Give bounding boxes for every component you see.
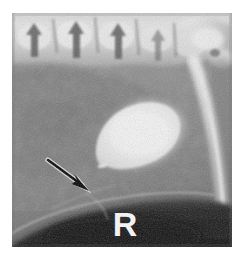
side-marker-r: R: [108, 204, 142, 244]
radiograph-page: R: [0, 0, 245, 260]
